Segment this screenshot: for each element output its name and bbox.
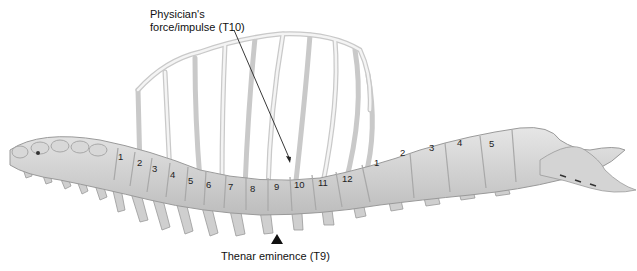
svg-text:2: 2 [137,157,142,168]
physician-force-label: Physician's force/impulse (T10) [150,8,245,34]
thenar-eminence-label: Thenar eminence (T9) [221,250,330,263]
svg-text:1: 1 [118,151,123,162]
svg-text:11: 11 [318,177,328,188]
thenar-eminence-marker [271,234,283,244]
spine-svg: 1 2 3 4 5 6 7 8 9 10 11 12 1 2 3 4 5 [0,0,637,271]
svg-text:5: 5 [188,175,193,186]
svg-text:1: 1 [374,157,379,168]
svg-text:3: 3 [152,163,157,174]
svg-text:12: 12 [342,173,353,184]
svg-text:5: 5 [489,138,494,149]
svg-text:10: 10 [294,179,305,190]
svg-text:3: 3 [429,142,434,153]
svg-text:8: 8 [250,183,255,194]
physician-force-label-line2: force/impulse (T10) [150,21,245,34]
physician-force-label-line1: Physician's [150,8,245,21]
svg-text:7: 7 [228,181,233,192]
svg-text:6: 6 [206,179,211,190]
spine-illustration: 1 2 3 4 5 6 7 8 9 10 11 12 1 2 3 4 5 Phy… [0,0,637,271]
svg-text:4: 4 [457,137,462,148]
svg-text:2: 2 [400,147,405,158]
svg-text:9: 9 [274,181,279,192]
svg-text:4: 4 [170,169,175,180]
